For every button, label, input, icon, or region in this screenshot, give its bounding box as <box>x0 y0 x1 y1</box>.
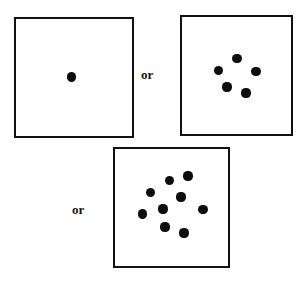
stimulus-dot <box>251 67 260 76</box>
stimulus-dot <box>183 171 192 180</box>
stimulus-dot <box>160 222 169 231</box>
stimulus-dot <box>138 209 147 218</box>
stimulus-dot <box>179 228 188 237</box>
stimulus-dot <box>176 192 185 201</box>
stimulus-dot <box>67 72 76 81</box>
or-connector-label: or <box>141 68 153 81</box>
stimulus-box-9[interactable] <box>113 147 230 268</box>
stimulus-box-5[interactable] <box>180 15 293 136</box>
stimulus-dot <box>232 54 241 63</box>
or-connector-label: or <box>72 203 84 216</box>
stimulus-dot <box>198 205 207 214</box>
numerosity-comparison-figure: oror <box>0 0 308 281</box>
stimulus-dot <box>241 88 250 97</box>
stimulus-dot <box>222 82 231 91</box>
stimulus-dot <box>158 204 167 213</box>
